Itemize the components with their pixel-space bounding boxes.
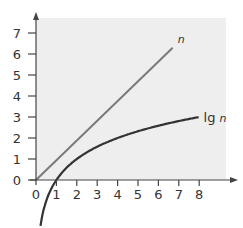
x-tick-label: 0 bbox=[32, 187, 40, 202]
x-tick-label: 8 bbox=[195, 187, 203, 202]
y-tick-label: 0 bbox=[13, 173, 21, 188]
x-tick-label: 7 bbox=[175, 187, 183, 202]
y-tick-label: 7 bbox=[13, 26, 21, 41]
y-axis-arrow-icon bbox=[33, 12, 39, 20]
x-tick-label: 1 bbox=[52, 187, 60, 202]
chart: 01234567801234567 nlg n bbox=[0, 0, 243, 228]
x-axis-arrow-icon bbox=[230, 177, 238, 183]
y-tick-label: 1 bbox=[13, 152, 21, 167]
plot-background bbox=[36, 18, 226, 180]
series-label-lg-n: lg n bbox=[204, 110, 227, 125]
y-tick-label: 3 bbox=[13, 110, 21, 125]
y-tick-label: 2 bbox=[13, 131, 21, 146]
y-tick-label: 4 bbox=[13, 89, 21, 104]
x-tick-label: 4 bbox=[113, 187, 121, 202]
y-tick-label: 6 bbox=[13, 47, 21, 62]
y-tick-label: 5 bbox=[13, 68, 21, 83]
series-label-n: n bbox=[178, 33, 185, 46]
x-tick-label: 2 bbox=[73, 187, 81, 202]
x-tick-label: 3 bbox=[93, 187, 101, 202]
x-tick-label: 5 bbox=[134, 187, 142, 202]
x-tick-label: 6 bbox=[154, 187, 162, 202]
